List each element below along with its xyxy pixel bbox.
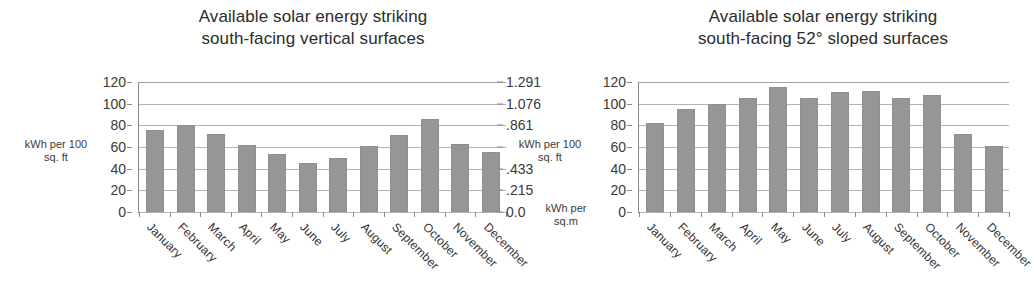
secondary-y-axis-tick-mark [497,125,503,126]
y-axis-tick-mark [127,169,132,170]
x-axis-label: May [768,220,794,246]
bar-slot [232,82,263,212]
bar [739,98,757,212]
x-axis-label: May [267,220,293,246]
chart-title-left-line2: south-facing vertical surfaces [118,28,508,50]
y-axis-tick-label: 120 [603,74,626,90]
x-axis-label: July [830,220,856,246]
y-axis-caption-left: kWh per 100 sq. ft [14,138,98,164]
y-axis-tick-mark [127,212,132,213]
y-axis-caption-right: kWh per 100 sq. ft [508,138,592,164]
y-axis-tick-label: 100 [603,96,626,112]
y-axis-tick-label: 100 [103,96,126,112]
bar-slot [323,82,354,212]
x-axis-label: April [737,220,765,248]
x-axis-label: July [328,220,354,246]
bar-slot [978,82,1009,212]
bar-slot [354,82,385,212]
y-axis-caption-left-line2: sq. ft [14,151,98,164]
bar [451,144,469,212]
bar [923,95,941,212]
y-axis-tick-mark [127,82,132,83]
y-axis-tick-mark [627,104,632,105]
y-axis-caption-right-line2: sq. ft [508,151,592,164]
bar-slot [384,82,415,212]
x-axis-label: August [358,220,395,257]
y-axis-tick-label: 20 [110,182,126,198]
x-axis-tick-mark [1009,212,1010,217]
secondary-y-axis-tick-mark [497,147,503,148]
chart-title-left: Available solar energy striking south-fa… [118,6,508,50]
y-axis-tick-mark [627,169,632,170]
bar [146,130,164,212]
bar [421,119,439,212]
bar [390,135,408,212]
y-axis-ticks-right: 120100806040200 [598,82,632,212]
bar [238,145,256,212]
chart-sloped-surfaces: Available solar energy striking south-fa… [510,0,1019,298]
bar-slot [171,82,202,212]
y-axis-tick-label: 80 [110,117,126,133]
bar-series-left [140,82,506,212]
bar [299,163,317,212]
bar [862,91,880,212]
x-axis-labels-right: JanuaryFebruaryMarchAprilMayJuneJulyAugu… [639,212,1009,298]
bar-slot [671,82,702,212]
x-axis-label: June [799,220,828,249]
x-axis-label: August [860,220,897,257]
y-axis-tick-mark [627,125,632,126]
y-axis-caption-right-line1: kWh per 100 [508,138,592,151]
y-axis-tick-mark [127,125,132,126]
bar-slot [855,82,886,212]
plot-area-right: JanuaryFebruaryMarchAprilMayJuneJulyAugu… [638,82,1009,213]
y-axis-tick-label: 60 [110,139,126,155]
bar-slot [794,82,825,212]
bar-slot [825,82,856,212]
chart-title-right-line1: Available solar energy striking [628,6,1018,28]
bar-slot [917,82,948,212]
plot-area-left: JanuaryFebruaryMarchAprilMayJuneJulyAugu… [138,82,506,213]
chart-title-left-line1: Available solar energy striking [118,6,508,28]
x-axis-label: June [297,220,326,249]
chart-title-right: Available solar energy striking south-fa… [628,6,1018,50]
y-axis-tick-mark [127,104,132,105]
bar-slot [415,82,446,212]
x-axis-labels-left: JanuaryFebruaryMarchAprilMayJuneJulyAugu… [139,212,506,298]
y-axis-ticks-left: 120100806040200 [98,82,132,212]
bar [954,134,972,212]
bar-slot [886,82,917,212]
y-axis-tick-label: 0 [618,204,626,220]
bar [360,146,378,212]
chart-title-right-line2: south-facing 52° sloped surfaces [628,28,1018,50]
bar-slot [732,82,763,212]
y-axis-tick-label: 60 [610,139,626,155]
y-axis-tick-label: 40 [110,161,126,177]
bar [268,154,286,213]
y-axis-tick-label: 0 [118,204,126,220]
y-axis-tick-mark [627,82,632,83]
y-axis-caption-left-line1: kWh per 100 [14,138,98,151]
y-axis-tick-label: 40 [610,161,626,177]
y-axis-tick-mark [627,147,632,148]
x-axis-label: April [236,220,264,248]
bar-slot [262,82,293,212]
bar-slot [948,82,979,212]
bar [769,87,787,212]
y-axis-tick-mark [627,190,632,191]
y-axis-tick-mark [127,147,132,148]
bar-slot [640,82,671,212]
secondary-y-axis-tick-mark [497,190,503,191]
bar-slot [445,82,476,212]
bar-slot [201,82,232,212]
bar [646,123,664,212]
y-axis-tick-mark [127,190,132,191]
bar-slot [293,82,324,212]
secondary-y-axis-tick-mark [497,212,503,213]
y-axis-tick-label: 80 [610,117,626,133]
bar [800,98,818,212]
bar [831,92,849,212]
bar [329,158,347,212]
bar-series-right [640,82,1009,212]
bar [207,134,225,212]
